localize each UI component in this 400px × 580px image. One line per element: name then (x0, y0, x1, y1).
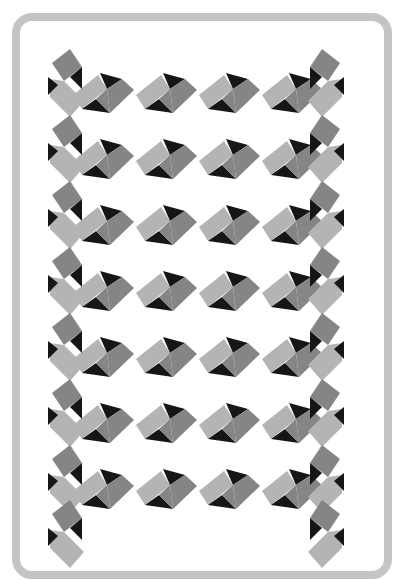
geometric-pattern (0, 0, 400, 580)
